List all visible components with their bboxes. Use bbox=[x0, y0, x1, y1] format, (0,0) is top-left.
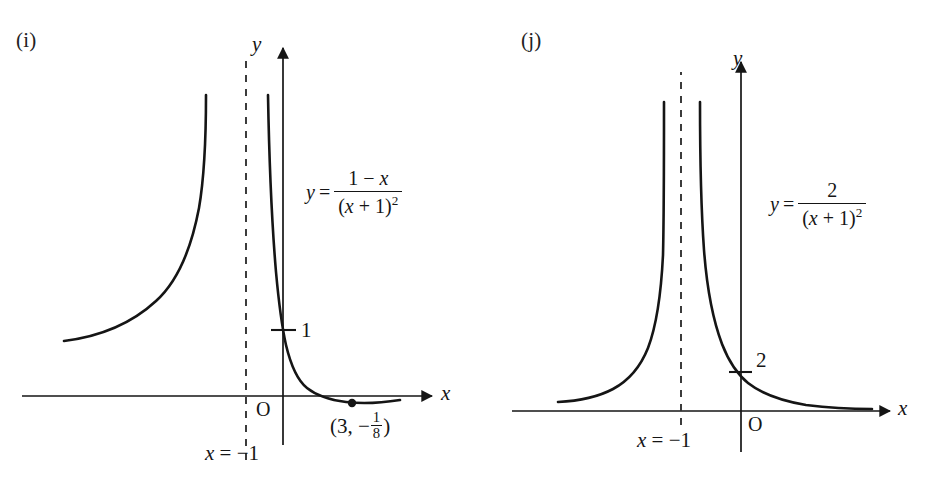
panel-j-equation-power: 2 bbox=[856, 205, 863, 220]
panel-i-equation-numerator: 1 − x bbox=[342, 168, 394, 191]
panel-i-point-label-fraction: 1 8 bbox=[371, 410, 382, 440]
graphs-svg bbox=[0, 0, 929, 501]
panel-i-asymptote-label-x: x bbox=[205, 441, 214, 465]
panel-j-asymptote-label-x: x bbox=[637, 428, 646, 452]
panel-i-point-label-denominator: 8 bbox=[371, 425, 382, 441]
panel-i-equation-denominator: (x + 1)2 bbox=[334, 191, 402, 217]
panel-i-y-axis-label: y bbox=[252, 32, 261, 57]
figure-canvas: (i) y x O 1 x = −1 (3, − 1 8 ) y = 1 − x… bbox=[0, 0, 929, 501]
panel-j-asymptote-label-rest: = −1 bbox=[646, 428, 691, 452]
panel-i-graph bbox=[22, 48, 432, 460]
panel-j-asymptote-label: x = −1 bbox=[637, 428, 691, 453]
panel-i-origin-label: O bbox=[256, 398, 270, 421]
panel-i-equation-fraction: 1 − x (x + 1)2 bbox=[334, 168, 402, 217]
panel-i-right-branch bbox=[268, 95, 400, 403]
panel-label-i: (i) bbox=[16, 28, 36, 53]
panel-j-right-branch bbox=[700, 102, 872, 409]
panel-j-equation-fraction: 2 (x + 1)2 bbox=[798, 180, 866, 229]
panel-j-y-axis-label: y bbox=[733, 46, 742, 71]
panel-i-left-branch bbox=[64, 95, 206, 341]
panel-i-point-label: (3, − 1 8 ) bbox=[330, 411, 390, 441]
panel-j-left-branch bbox=[558, 102, 664, 402]
panel-i-equation-power: 2 bbox=[392, 193, 399, 208]
panel-i-minimum-point bbox=[348, 399, 356, 407]
panel-i-asymptote-label: x = −1 bbox=[205, 441, 259, 466]
panel-i-asymptote-label-rest: = −1 bbox=[214, 441, 259, 465]
panel-j-equation-numerator: 2 bbox=[821, 180, 843, 203]
panel-i-y-tick-label: 1 bbox=[301, 318, 312, 343]
panel-i-x-axis-label: x bbox=[441, 381, 450, 406]
panel-i-point-label-prefix: (3, − bbox=[330, 414, 370, 439]
panel-j-equation: y = 2 (x + 1)2 bbox=[770, 180, 866, 229]
panel-i-equation-relation: = bbox=[319, 181, 330, 204]
panel-j-x-axis-label: x bbox=[898, 396, 907, 421]
panel-j-equation-lhs: y bbox=[770, 193, 779, 216]
panel-i-point-label-suffix: ) bbox=[383, 414, 390, 439]
panel-label-j: (j) bbox=[521, 28, 541, 53]
panel-j-origin-label: O bbox=[748, 413, 762, 436]
panel-i-equation-lhs: y bbox=[306, 181, 315, 204]
panel-j-y-tick-label: 2 bbox=[756, 348, 767, 373]
panel-j-equation-denominator: (x + 1)2 bbox=[798, 203, 866, 229]
panel-i-equation: y = 1 − x (x + 1)2 bbox=[306, 168, 402, 217]
panel-i-point-label-numerator: 1 bbox=[371, 410, 382, 425]
panel-j-graph bbox=[512, 62, 890, 452]
panel-j-equation-relation: = bbox=[783, 193, 794, 216]
